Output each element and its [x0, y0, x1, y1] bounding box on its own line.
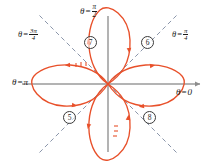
- petal-bottom: [89, 84, 130, 160]
- fraction-denominator-top: 2: [92, 12, 98, 19]
- equals-upper-right: =: [176, 29, 183, 39]
- fraction-denominator-upper-left: 4: [31, 35, 36, 42]
- fraction-denominator-upper-right: 4: [183, 35, 188, 42]
- label-theta-pi: θ=π: [12, 78, 28, 87]
- direction-arrow-top-right: [127, 48, 132, 54]
- label-theta-zero: θ=0: [176, 88, 192, 97]
- value-left: π: [24, 77, 29, 87]
- marker-8: 8: [143, 111, 156, 124]
- marker-7: 7: [84, 36, 97, 49]
- label-theta-pi-over-4: θ= π 4: [172, 28, 188, 43]
- polar-plot-svg: [0, 0, 216, 165]
- label-theta-pi-over-2: θ= π 2: [80, 4, 97, 19]
- direction-arrow-right-lower: [139, 104, 145, 109]
- equals-top: =: [84, 6, 91, 16]
- petal-right: [108, 65, 184, 106]
- value-right: 0: [188, 87, 193, 97]
- equals-left: =: [16, 77, 23, 87]
- marker-6: 6: [141, 36, 154, 49]
- direction-arrow-left-upper: [65, 63, 71, 68]
- equals-upper-left: =: [22, 29, 29, 39]
- polar-rose-figure: θ= π 2 θ= 3π 4 θ= π 4 θ=π θ=0 7 6 5 8: [0, 0, 216, 165]
- label-theta-3pi-over-4: θ= 3π 4: [18, 28, 38, 43]
- equals-right: =: [180, 87, 187, 97]
- marker-5: 5: [63, 111, 76, 124]
